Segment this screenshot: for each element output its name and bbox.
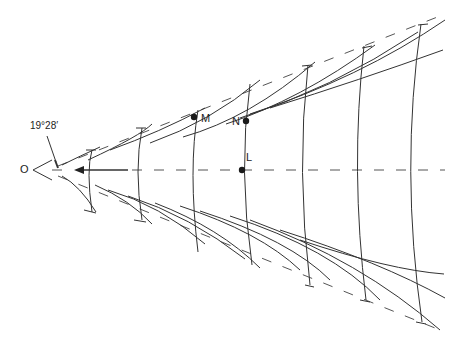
arrow-icon — [74, 166, 128, 174]
angle-label: 19°28′ — [30, 121, 58, 131]
upper-characteristics — [62, 20, 445, 165]
point-l-label: L — [246, 152, 252, 163]
point-l — [239, 167, 245, 173]
front-arcs — [89, 24, 422, 322]
lower-characteristics — [62, 176, 445, 330]
arc-caps — [84, 24, 428, 324]
apex-lines — [33, 160, 52, 180]
point-n-label: N — [232, 116, 240, 127]
cone-boundary — [58, 16, 440, 330]
point-m-label: M — [201, 113, 210, 124]
angle-marker — [47, 136, 58, 168]
cone-diagram — [0, 0, 461, 345]
point-m — [191, 114, 197, 120]
point-n — [243, 118, 249, 124]
origin-label: O — [20, 164, 29, 175]
